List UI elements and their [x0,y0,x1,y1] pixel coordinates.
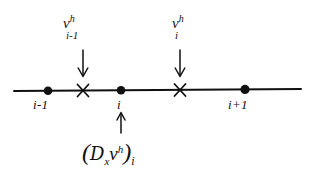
operator-expression: (Dxvh)i [82,140,135,167]
operator-open-paren: ( [82,139,90,165]
stencil-figure: vh i-1 vh i i-1 i i+1 (Dxvh)i [0,0,311,184]
value-label-right-superscript: h [179,13,184,24]
value-label-left-superscript: h [70,13,75,24]
operator-symbol: D [90,143,104,164]
axis-line [14,89,301,91]
node-label-i: i [117,98,121,111]
value-label-left: vh i-1 [63,14,78,41]
operator-operand: v [109,143,117,164]
node-label-i-minus-1: i-1 [33,98,48,111]
node-marker-i [117,86,126,95]
value-label-right: vh i [172,14,184,41]
arrow-up-center [117,113,125,134]
operator-outer-subscript: i [131,154,134,168]
node-marker-i-plus-1 [240,85,249,94]
arrow-down-right [175,50,185,77]
stencil-canvas [0,0,311,184]
node-marker-i-minus-1 [44,86,53,95]
value-label-left-subscript: i-1 [66,30,78,41]
node-label-i-plus-1: i+1 [228,98,248,111]
arrow-down-left [78,50,88,77]
value-label-right-subscript: i [175,30,184,41]
